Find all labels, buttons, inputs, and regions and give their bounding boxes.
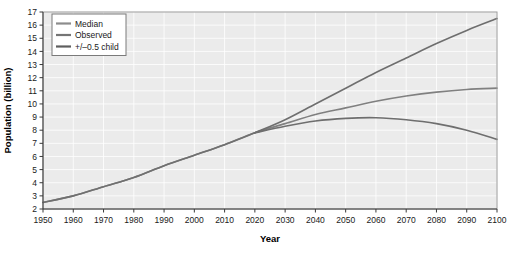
x-axis-tick-label: 2000: [185, 215, 204, 225]
legend-item-label: Median: [75, 19, 103, 29]
y-axis-tick-label: 14: [28, 47, 38, 57]
x-axis-tick-label: 2070: [397, 215, 416, 225]
y-axis-tick-label: 2: [32, 204, 37, 214]
x-axis-tick-label: 2100: [488, 215, 507, 225]
x-axis-tick-label: 1990: [155, 215, 174, 225]
x-axis-title: Year: [260, 233, 280, 244]
x-axis-tick-label: 2090: [457, 215, 476, 225]
x-axis-tick-label: 2080: [427, 215, 446, 225]
x-axis-tick-label: 1960: [64, 215, 83, 225]
x-axis-tick-label: 1980: [124, 215, 143, 225]
y-axis-tick-label: 6: [32, 152, 37, 162]
x-axis-tick-label: 2030: [276, 215, 295, 225]
y-axis-tick-label: 4: [32, 178, 37, 188]
y-axis-tick-label: 10: [28, 99, 38, 109]
legend-item-label: Observed: [75, 30, 112, 40]
chart-canvas: 2345678910111213141516171950196019701980…: [0, 0, 516, 263]
y-axis-tick-label: 13: [28, 60, 38, 70]
y-axis-tick-label: 16: [28, 20, 38, 30]
x-axis-tick-label: 2060: [366, 215, 385, 225]
x-axis-tick-label: 1970: [94, 215, 113, 225]
population-projection-chart: 2345678910111213141516171950196019701980…: [0, 0, 516, 263]
x-axis-tick-label: 2050: [336, 215, 355, 225]
y-axis-title: Population (billion): [2, 67, 13, 153]
y-axis-tick-label: 9: [32, 112, 37, 122]
y-axis-tick-label: 5: [32, 165, 37, 175]
y-axis-tick-label: 11: [28, 86, 37, 96]
y-axis-tick-label: 3: [32, 191, 37, 201]
legend-item-label: +/–0.5 child: [75, 42, 119, 52]
x-axis-tick-label: 2020: [245, 215, 264, 225]
y-axis-tick-label: 8: [32, 125, 37, 135]
x-axis-tick-label: 2040: [306, 215, 325, 225]
y-axis: 234567891011121314151617: [28, 7, 43, 214]
x-axis-tick-label: 1950: [34, 215, 53, 225]
y-axis-tick-label: 7: [32, 138, 37, 148]
y-axis-tick-label: 12: [28, 73, 38, 83]
y-axis-tick-label: 17: [28, 7, 38, 17]
legend: MedianObserved+/–0.5 child: [52, 14, 126, 56]
x-axis: 1950196019701980199020002010202020302040…: [34, 209, 507, 225]
x-axis-tick-label: 2010: [215, 215, 234, 225]
y-axis-tick-label: 15: [28, 33, 38, 43]
